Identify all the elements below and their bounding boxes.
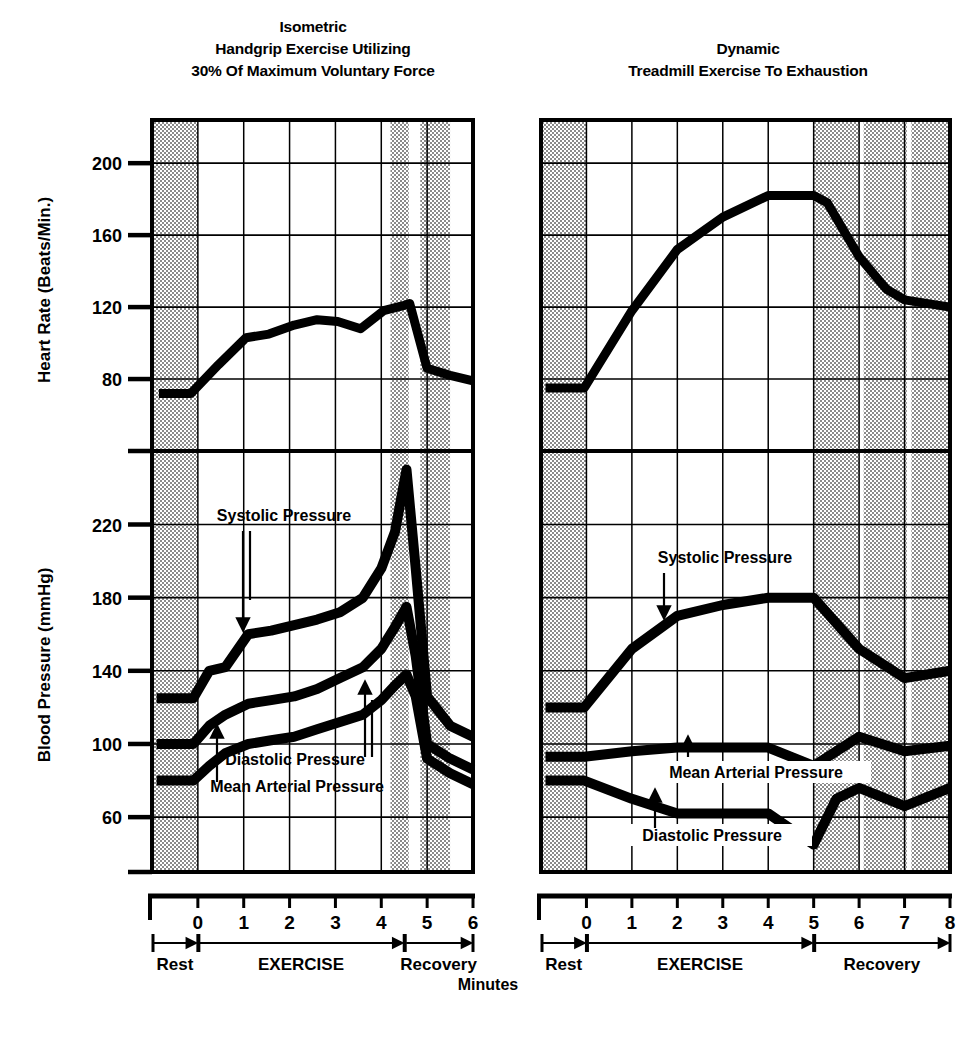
x-tick-label-isometric-6: 6 (468, 912, 479, 933)
x-tick-label-isometric-3: 3 (330, 912, 341, 933)
panel-title-dynamic-line-0: Dynamic (716, 40, 780, 57)
x-tick-label-dynamic-6: 6 (854, 912, 865, 933)
phase-label-dynamic-recovery: Recovery (844, 955, 921, 974)
bp-tick-label-140: 140 (92, 662, 122, 682)
bp-tick-label-100: 100 (92, 735, 122, 755)
annotation-map-dynamic: Mean Arterial Pressure (669, 764, 843, 781)
x-tick-label-dynamic-1: 1 (627, 912, 638, 933)
panel-title-isometric-line-0: Isometric (279, 18, 347, 35)
x-tick-label-isometric-1: 1 (238, 912, 249, 933)
x-tick-label-dynamic-2: 2 (672, 912, 683, 933)
shaded-band-dynamic (864, 120, 907, 872)
x-axis-name: Minutes (458, 976, 519, 993)
heart-rate-axis-label: Heart Rate (Beats/Min.) (35, 197, 54, 383)
annotation-systolic-isometric: Systolic Pressure (217, 507, 351, 524)
bp-tick-label-60: 60 (102, 808, 122, 828)
hr-tick-label-160: 160 (92, 226, 122, 246)
x-tick-label-isometric-5: 5 (422, 912, 433, 933)
hr-tick-label-80: 80 (102, 370, 122, 390)
exercise-hemodynamics-figure: 2001601208022018014010060Heart Rate (Bea… (0, 0, 973, 1037)
x-tick-label-dynamic-4: 4 (763, 912, 774, 933)
figure-container: 2001601208022018014010060Heart Rate (Bea… (0, 0, 973, 1037)
blood-pressure-axis-label: Blood Pressure (mmHg) (35, 568, 54, 763)
bp-tick-label-180: 180 (92, 589, 122, 609)
x-tick-label-dynamic-5: 5 (808, 912, 819, 933)
bp-tick-label-220: 220 (92, 516, 122, 536)
shaded-band-isometric (152, 120, 198, 872)
x-tick-label-dynamic-8: 8 (945, 912, 956, 933)
phase-label-dynamic-rest: Rest (545, 955, 582, 974)
phase-label-dynamic-exercise: EXERCISE (657, 955, 743, 974)
x-tick-label-dynamic-3: 3 (717, 912, 728, 933)
annotation-diastolic-isometric: Diastolic Pressure (225, 751, 365, 768)
annotation-systolic-dynamic: Systolic Pressure (658, 549, 792, 566)
shaded-band-dynamic (911, 120, 950, 872)
panel-title-isometric-line-1: Handgrip Exercise Utilizing (215, 40, 410, 57)
annotation-diastolic-dynamic: Diastolic Pressure (642, 827, 782, 844)
panel-title-isometric-line-2: 30% Of Maximum Voluntary Force (191, 62, 435, 79)
phase-label-isometric-recovery: Recovery (400, 955, 477, 974)
x-tick-label-isometric-0: 0 (193, 912, 204, 933)
phase-label-isometric-exercise: EXERCISE (258, 955, 344, 974)
hr-tick-label-200: 200 (92, 154, 122, 174)
x-tick-label-dynamic-7: 7 (899, 912, 910, 933)
x-tick-label-isometric-4: 4 (376, 912, 387, 933)
hr-tick-label-120: 120 (92, 298, 122, 318)
phase-label-isometric-rest: Rest (156, 955, 193, 974)
x-tick-label-isometric-2: 2 (284, 912, 295, 933)
annotation-map-isometric: Mean Arterial Pressure (210, 778, 384, 795)
x-tick-label-dynamic-0: 0 (581, 912, 592, 933)
panel-title-dynamic-line-1: Treadmill Exercise To Exhaustion (628, 62, 868, 79)
